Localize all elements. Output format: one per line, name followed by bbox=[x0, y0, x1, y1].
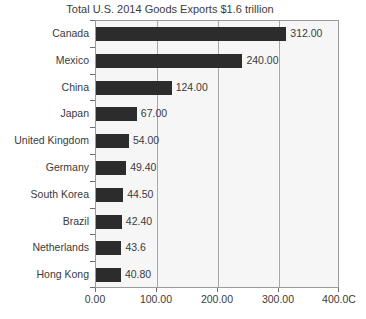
category-label: Japan bbox=[0, 106, 89, 121]
bar-value-label: 49.40 bbox=[126, 160, 156, 175]
x-axis-label: 400.0C bbox=[309, 292, 366, 307]
bar-value-label: 40.80 bbox=[121, 267, 151, 282]
category-label: Mexico bbox=[0, 53, 89, 68]
bar-value-label: 44.50 bbox=[123, 187, 153, 202]
category-label: South Korea bbox=[0, 187, 89, 202]
category-label: Netherlands bbox=[0, 240, 89, 255]
x-axis-label: 0.00 bbox=[65, 292, 125, 307]
bar-value-label: 54.00 bbox=[129, 133, 159, 148]
bar-row: 49.40 bbox=[96, 155, 338, 182]
bar bbox=[96, 134, 129, 148]
bar-chart: Total U.S. 2014 Goods Exports $1.6 trill… bbox=[0, 0, 366, 319]
category-label: United Kingdom bbox=[0, 133, 89, 148]
category-label: Canada bbox=[0, 26, 89, 41]
category-label: China bbox=[0, 80, 89, 95]
bar-rows: 312.00240.00124.0067.0054.0049.4044.5042… bbox=[96, 21, 338, 287]
bar-row: 42.40 bbox=[96, 209, 338, 236]
bar-value-label: 43.6 bbox=[121, 240, 145, 255]
bar bbox=[96, 241, 121, 255]
bar bbox=[96, 27, 286, 41]
bar-row: 44.50 bbox=[96, 182, 338, 209]
bar bbox=[96, 215, 122, 229]
bar-row: 312.00 bbox=[96, 21, 338, 48]
bar bbox=[96, 188, 123, 202]
x-axis-label: 300.00 bbox=[248, 292, 308, 307]
bar bbox=[96, 161, 126, 175]
bar-value-label: 240.00 bbox=[242, 53, 278, 68]
x-axis-label: 200.00 bbox=[187, 292, 247, 307]
bar-row: 54.00 bbox=[96, 128, 338, 155]
category-axis-labels: CanadaMexicoChinaJapanUnited KingdomGerm… bbox=[0, 20, 89, 288]
bar bbox=[96, 107, 137, 121]
x-axis-label: 100.00 bbox=[126, 292, 186, 307]
chart-title: Total U.S. 2014 Goods Exports $1.6 trill… bbox=[0, 2, 340, 16]
plot-area: 312.00240.00124.0067.0054.0049.4044.5042… bbox=[95, 20, 339, 288]
category-label: Hong Kong bbox=[0, 267, 89, 282]
bar-value-label: 312.00 bbox=[286, 26, 322, 41]
bar-row: 124.00 bbox=[96, 75, 338, 102]
bar bbox=[96, 54, 242, 68]
category-label: Germany bbox=[0, 160, 89, 175]
bar-value-label: 42.40 bbox=[122, 214, 152, 229]
x-axis-labels: 0.00100.00200.00300.00400.0C bbox=[0, 292, 366, 308]
bar-row: 40.80 bbox=[96, 262, 338, 289]
category-label: Brazil bbox=[0, 214, 89, 229]
bar-value-label: 67.00 bbox=[137, 106, 167, 121]
bar-value-label: 124.00 bbox=[172, 80, 208, 95]
bar bbox=[96, 81, 172, 95]
bar-row: 67.00 bbox=[96, 101, 338, 128]
bar-row: 43.6 bbox=[96, 235, 338, 262]
bar-row: 240.00 bbox=[96, 48, 338, 75]
bar bbox=[96, 268, 121, 282]
